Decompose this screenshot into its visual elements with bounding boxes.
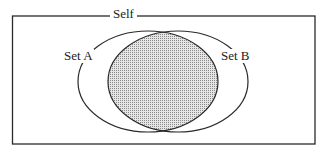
universe-label: Self	[110, 7, 137, 21]
set-a-label: Set A	[63, 49, 94, 63]
venn-diagram	[0, 0, 324, 154]
set-b-label: Set B	[220, 49, 251, 63]
